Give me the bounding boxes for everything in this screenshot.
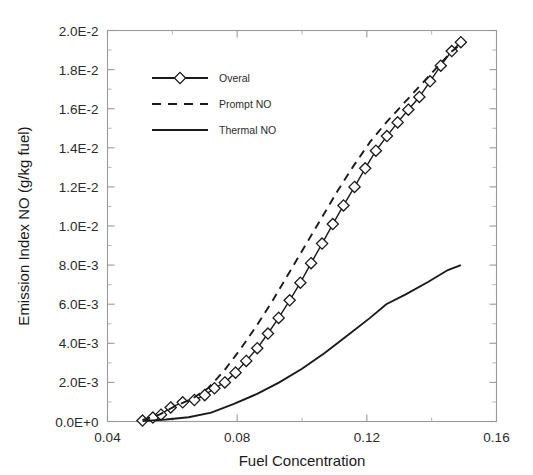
y-tick-label: 6.0E-3 (59, 297, 99, 312)
legend-label: Prompt NO (219, 98, 272, 110)
y-tick-label: 4.0E-3 (59, 336, 99, 351)
y-tick-label: 1.6E-2 (59, 102, 99, 117)
y-tick-label: 2.0E-3 (59, 375, 99, 390)
y-tick-label: 1.2E-2 (59, 180, 99, 195)
legend-label: Thermal NO (219, 124, 276, 136)
x-tick-label: 0.12 (354, 430, 380, 445)
y-tick-label: 1.8E-2 (59, 63, 99, 78)
x-axis-title: Fuel Concentration (239, 452, 366, 469)
y-tick-label: 1.0E-2 (59, 219, 99, 234)
y-axis-title: Emission Index NO (g/kg fuel) (15, 126, 32, 325)
y-tick-label: 1.4E-2 (59, 141, 99, 156)
emission-index-no-line-chart: 0.040.080.120.16 0.0E+02.0E-34.0E-36.0E-… (0, 0, 533, 475)
y-tick-label: 8.0E-3 (59, 258, 99, 273)
y-tick-label: 2.0E-2 (59, 24, 99, 39)
chart-figure: 0.040.080.120.16 0.0E+02.0E-34.0E-36.0E-… (0, 0, 533, 475)
x-tick-label: 0.16 (483, 430, 509, 445)
x-tick-label: 0.04 (94, 430, 121, 445)
legend-label: Overal (219, 72, 250, 84)
y-tick-label: 0.0E+0 (55, 415, 98, 430)
x-tick-label: 0.08 (224, 430, 250, 445)
